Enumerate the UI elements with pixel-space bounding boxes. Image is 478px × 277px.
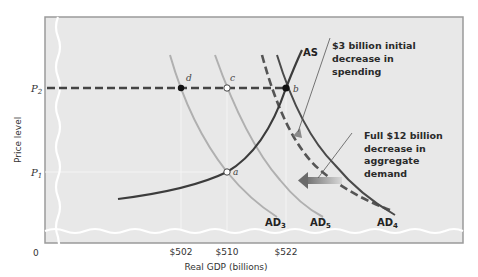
p2-label: P2 <box>30 83 43 96</box>
origin-label: 0 <box>33 248 39 258</box>
y-axis-title: Price level <box>13 117 23 163</box>
point-b <box>282 84 289 91</box>
x-tick-522: $522 <box>275 247 298 257</box>
x-tick-502: $502 <box>170 247 193 257</box>
point-c <box>224 85 230 91</box>
point-d <box>178 85 184 91</box>
x-tick-510: $510 <box>216 247 239 257</box>
point-a <box>224 169 230 175</box>
point-b-label: b <box>293 84 299 94</box>
point-c-label: c <box>230 73 235 83</box>
p1-label: P1 <box>30 167 42 180</box>
x-axis-title: Real GDP (billions) <box>184 262 267 272</box>
as-label: AS <box>303 47 318 58</box>
ad-as-diagram: d c b a AS AD3 AD5 AD4 $3 billion initia… <box>0 0 478 277</box>
point-d-label: d <box>186 73 192 83</box>
point-a-label: a <box>233 167 238 177</box>
